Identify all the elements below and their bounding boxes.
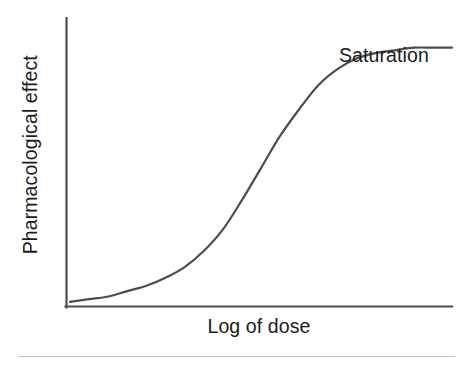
x-axis-label: Log of dose [66,316,452,337]
dose-response-curve [70,48,452,302]
dose-response-figure: Pharmacological effect Log of dose Satur… [0,0,472,368]
curve-group [70,48,452,302]
bottom-divider [18,356,455,357]
saturation-annotation-label: Saturation [339,45,429,66]
